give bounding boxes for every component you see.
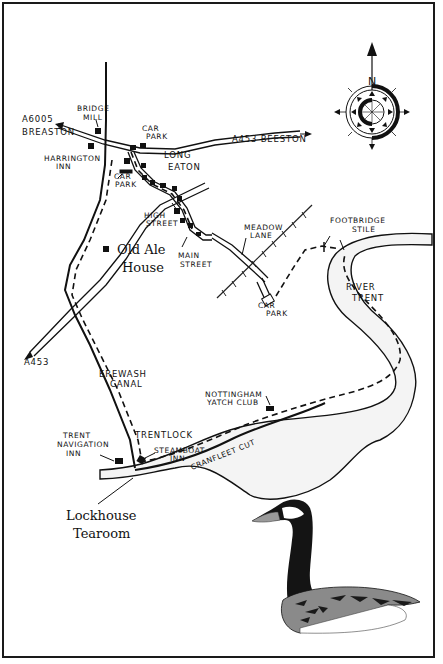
label-trent-nav-1: TRENT	[62, 431, 91, 440]
label-trent-nav-3: INN	[66, 449, 81, 458]
label-a453-beeston: A453 BEESTON	[232, 134, 307, 144]
label-car-park-left-2: PARK	[115, 180, 137, 189]
label-lockhouse-2: Tearoom	[73, 526, 130, 541]
label-main-street-1: MAIN	[178, 251, 200, 260]
label-yacht-club-2: YATCH CLUB	[206, 398, 259, 407]
label-river-trent-1: RIVER	[346, 282, 376, 292]
old-ale-house-icon	[103, 246, 109, 252]
label-erewash-1: EREWASH	[99, 369, 147, 379]
label-car-park-top-2: PARK	[146, 132, 168, 141]
label-bridge-mill-2: MILL	[83, 113, 103, 122]
label-lockhouse-1: Lockhouse	[66, 508, 137, 523]
label-breaston: BREASTON	[22, 127, 75, 137]
label-bridge-mill-1: BRIDGE	[77, 104, 110, 113]
label-harrington-inn-2: INN	[56, 162, 71, 171]
label-erewash-2: CANAL	[110, 379, 143, 389]
label-long-eaton-1: LONG	[164, 150, 191, 160]
trent-navigation-inn-icon	[115, 458, 123, 464]
label-harrington-inn-1: HARRINGTON	[44, 154, 101, 163]
label-stile: STILE	[352, 225, 375, 234]
label-a6005: A6005	[22, 114, 53, 124]
label-old-ale-house-2: House	[122, 260, 164, 275]
compass-icon: N	[334, 42, 410, 150]
label-trent-nav-2: NAVIGATION	[57, 440, 109, 449]
label-steamboat-2: INN	[170, 454, 185, 463]
label-trentlock: TRENTLOCK	[134, 430, 193, 440]
label-high-street-2: STREET	[146, 219, 178, 228]
label-long-eaton-2: EATON	[168, 162, 201, 172]
label-meadow-lane-2: LANE	[250, 231, 272, 240]
label-footbridge: FOOTBRIDGE	[330, 216, 386, 225]
label-river-trent-2: TRENT	[351, 293, 384, 303]
label-main-street-2: STREET	[180, 260, 212, 269]
canada-goose-illustration	[252, 499, 420, 633]
yacht-club-icon	[266, 406, 274, 411]
label-old-ale-house-1: Old Ale	[117, 242, 166, 257]
label-a453: A453	[24, 357, 49, 367]
walk-map: N	[0, 0, 443, 664]
label-car-park-meadow-2: PARK	[266, 309, 288, 318]
